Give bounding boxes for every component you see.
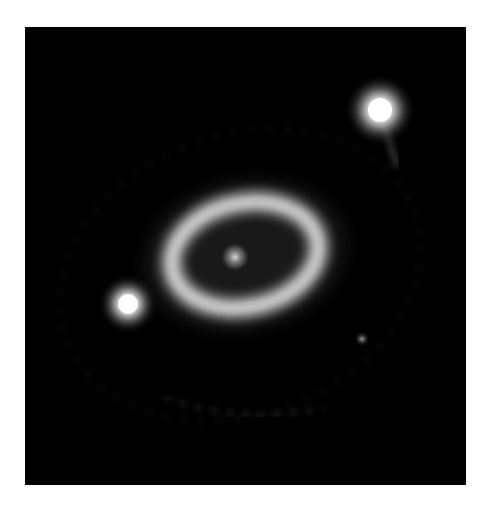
central-source: [219, 241, 251, 273]
faint-star: [354, 331, 370, 347]
star-left: [100, 276, 156, 332]
astronomy-image: [25, 27, 466, 485]
star-upper-right: [346, 76, 414, 167]
outer-arc-bottom: [165, 397, 325, 415]
nebula-render: [25, 27, 466, 485]
